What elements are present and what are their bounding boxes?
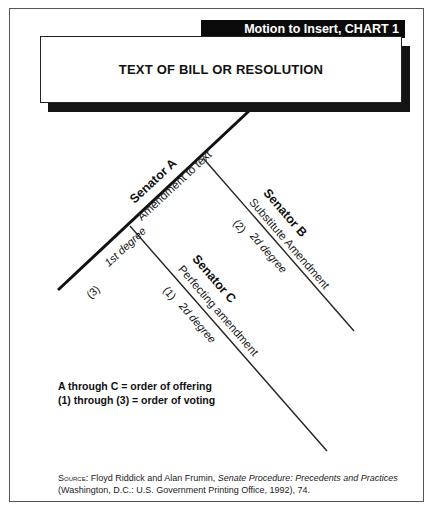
source-label: Source: [58, 473, 88, 483]
source-authors: Floyd Riddick and Alan Frumin, [88, 473, 218, 483]
legend: A through C = order of offering (1) thro… [58, 379, 215, 407]
source-details: (Washington, D.C.: U.S. Government Print… [58, 485, 310, 495]
legend-voting: (1) through (3) = order of voting [58, 393, 215, 407]
source-citation: Source: Floyd Riddick and Alan Frumin, S… [58, 472, 418, 496]
legend-offering: A through C = order of offering [58, 379, 215, 393]
source-title: Senate Procedure: Precedents and Practic… [218, 473, 398, 483]
diagram-lines [0, 0, 435, 516]
line-senator-b [203, 158, 354, 331]
